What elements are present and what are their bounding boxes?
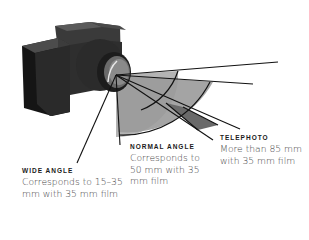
wide-angle-label: WIDE ANGLE Corresponds to 15–35 mm with …: [22, 167, 132, 199]
telephoto-label: TELEPHOTO More than 85 mm with 35 mm fil…: [220, 134, 309, 166]
normal-angle-title: NORMAL ANGLE: [130, 143, 210, 150]
normal-angle-desc-line3: mm film: [130, 175, 210, 187]
wide-angle-title: WIDE ANGLE: [22, 167, 132, 174]
telephoto-title: TELEPHOTO: [220, 134, 309, 141]
normal-angle-desc-line2: 50 mm with 35: [130, 164, 210, 176]
telephoto-desc-line2: with 35 mm film: [220, 155, 309, 167]
telephoto-desc-line1: More than 85 mm: [220, 143, 309, 155]
normal-angle-desc-line1: Corresponds to: [130, 152, 210, 164]
wide-angle-desc-line2: mm with 35 mm film: [22, 188, 132, 200]
normal-angle-label: NORMAL ANGLE Corresponds to 50 mm with 3…: [130, 143, 210, 187]
camera-icon: [22, 22, 131, 116]
wide-angle-desc-line1: Corresponds to 15–35: [22, 176, 132, 188]
